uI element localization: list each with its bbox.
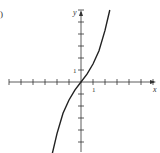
x-tick-label-1: 1 (92, 86, 96, 94)
y-tick-label-1: 1 (73, 67, 77, 75)
x-axis-label: x (152, 85, 157, 94)
y-axis-label: y (72, 8, 77, 17)
chart: x y 1 1 (0, 0, 160, 153)
y-axis-arrow-icon (79, 10, 83, 16)
